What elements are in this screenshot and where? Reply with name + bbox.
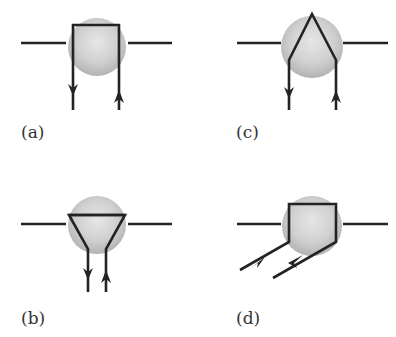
panel-d	[237, 196, 388, 278]
panel-b	[21, 196, 172, 292]
blob-b	[68, 196, 126, 254]
panel-label-b: (b)	[21, 310, 45, 327]
panel-label-c: (c)	[236, 124, 259, 141]
panel-label-d: (d)	[236, 310, 260, 327]
panel-label-a: (a)	[21, 124, 44, 141]
panel-a	[21, 18, 172, 110]
panel-c	[237, 14, 388, 110]
blob-a	[68, 18, 126, 76]
diagram-figure	[0, 0, 396, 337]
